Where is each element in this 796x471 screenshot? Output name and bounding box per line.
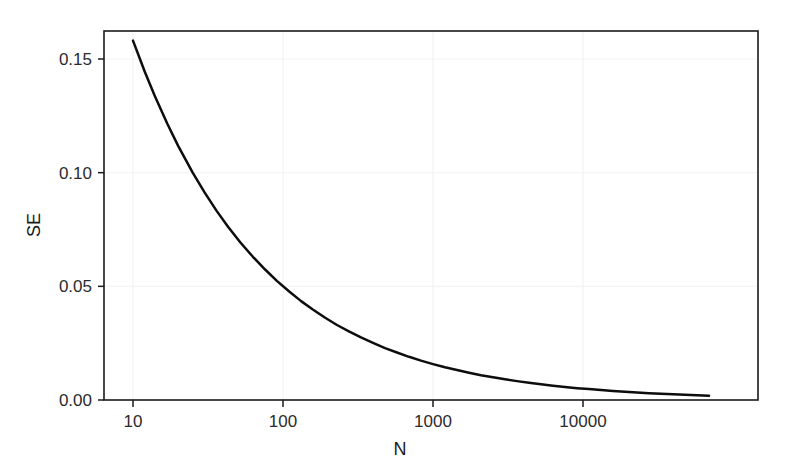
x-axis-tick-label: 10 <box>124 412 143 431</box>
y-axis-tick-label: 0.00 <box>59 391 92 410</box>
x-axis-title: N <box>394 439 407 459</box>
y-axis-title: SE <box>24 213 44 237</box>
y-axis-tick-label: 0.05 <box>59 277 92 296</box>
x-axis-tick-label: 10000 <box>559 412 606 431</box>
x-axis-tick-label: 100 <box>269 412 297 431</box>
y-axis-tick-label: 0.10 <box>59 164 92 183</box>
x-axis-tick-label: 1000 <box>414 412 452 431</box>
standard-error-line-chart: 0.000.050.100.15 10100100010000 N SE <box>0 0 796 471</box>
chart-figure: 0.000.050.100.15 10100100010000 N SE <box>0 0 796 471</box>
y-axis-tick-label: 0.15 <box>59 50 92 69</box>
